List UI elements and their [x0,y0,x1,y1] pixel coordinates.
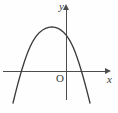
coordinate-plane-svg: y x O [0,0,118,113]
parabola-curve [13,27,90,103]
y-axis-label: y [58,0,64,12]
x-axis-label: x [106,73,112,85]
parabola-figure: y x O [0,0,118,113]
y-axis-arrowhead [63,4,69,10]
origin-label: O [56,72,64,84]
